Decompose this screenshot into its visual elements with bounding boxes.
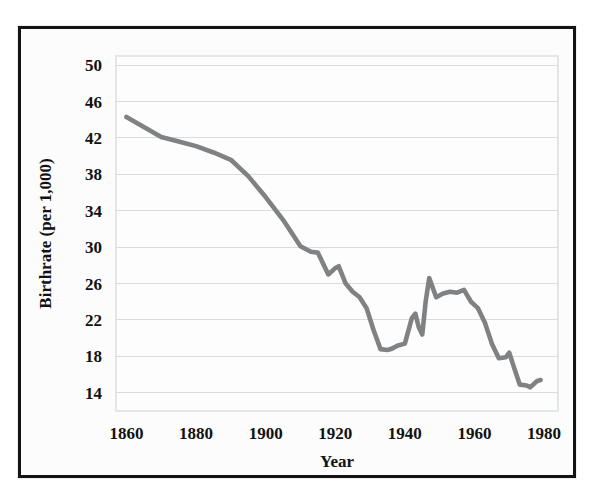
y-tick-label-38: 38 bbox=[85, 165, 102, 184]
x-tick-label-1960: 1960 bbox=[457, 424, 491, 443]
figure-root: 14182226303438424650 1860188019001920194… bbox=[0, 0, 596, 501]
x-tick-label-1920: 1920 bbox=[318, 424, 352, 443]
y-tick-label-50: 50 bbox=[85, 56, 102, 75]
x-tick-label-1900: 1900 bbox=[249, 424, 283, 443]
y-tick-label-30: 30 bbox=[85, 238, 102, 257]
plot-area bbox=[116, 56, 558, 411]
y-tick-label-26: 26 bbox=[85, 275, 102, 294]
y-tick-label-42: 42 bbox=[85, 129, 102, 148]
y-tick-label-14: 14 bbox=[85, 384, 103, 403]
x-axis-tick-labels: 1860188019001920194019601980 bbox=[109, 424, 561, 443]
y-tick-label-46: 46 bbox=[85, 93, 102, 112]
x-tick-label-1860: 1860 bbox=[109, 424, 143, 443]
x-tick-label-1880: 1880 bbox=[179, 424, 213, 443]
y-tick-label-34: 34 bbox=[85, 202, 103, 221]
y-axis-tick-labels: 14182226303438424650 bbox=[85, 56, 103, 403]
x-axis-title: Year bbox=[320, 452, 354, 471]
x-tick-label-1980: 1980 bbox=[527, 424, 561, 443]
x-tick-label-1940: 1940 bbox=[388, 424, 422, 443]
chart-frame: 14182226303438424650 1860188019001920194… bbox=[18, 26, 576, 478]
y-tick-label-22: 22 bbox=[85, 311, 102, 330]
birthrate-line-chart: 14182226303438424650 1860188019001920194… bbox=[21, 29, 573, 475]
y-tick-label-18: 18 bbox=[85, 347, 102, 366]
y-axis-title: Birthrate (per 1,000) bbox=[36, 158, 55, 308]
